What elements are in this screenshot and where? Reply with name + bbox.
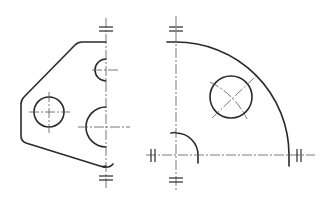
symmetry-mark-top [99, 27, 113, 31]
radial-centerline [212, 76, 256, 118]
small-quarter-arc [171, 133, 198, 164]
symmetry-mark-right [297, 149, 301, 162]
left-view [21, 18, 130, 188]
pitch-circle-arc [210, 82, 247, 119]
right-view [146, 16, 315, 190]
left-plate-outline [21, 42, 106, 167]
quarter-arc-outline [167, 42, 289, 166]
technical-drawing [0, 0, 328, 199]
symmetry-mark-left-right [151, 149, 155, 162]
